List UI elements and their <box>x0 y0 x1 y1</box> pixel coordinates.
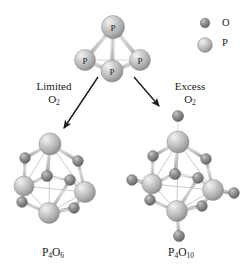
legend <box>198 18 213 52</box>
limited-oxygen-subscript: 2 <box>56 97 60 106</box>
p4o10-formula-label: P4O10 <box>150 246 212 260</box>
oxygen-atom <box>65 175 76 186</box>
excess-oxygen-line1: Excess <box>175 80 206 92</box>
p4o6-molecule <box>14 133 96 224</box>
limited-oxygen-line1: Limited <box>37 80 72 92</box>
limited-oxygen-line2: O <box>48 93 56 105</box>
oxygen-atom <box>201 154 212 165</box>
excess-oxygen-line2: O <box>184 93 192 105</box>
terminal-oxygen-atom <box>173 230 184 241</box>
terminal-oxygen-atom <box>172 110 183 121</box>
p4-tetrahedron: P P P P <box>75 16 151 83</box>
terminal-oxygen-atom <box>127 175 138 186</box>
oxygen-atom <box>193 173 204 184</box>
oxygen-sphere-icon <box>200 18 210 28</box>
p-atom-front-label: P <box>109 67 114 77</box>
oxygen-atom <box>145 195 156 206</box>
p4o6-subscript-6: 6 <box>60 251 64 260</box>
p4o10-subscript-10: 10 <box>186 251 194 260</box>
phosphorus-atom <box>167 131 189 153</box>
excess-oxygen-arrow <box>134 77 159 106</box>
p4o10-molecule <box>127 110 240 241</box>
p4o6-formula-label: P4O6 <box>22 246 84 260</box>
phosphorus-atom <box>203 180 224 201</box>
oxygen-atom <box>17 197 28 208</box>
excess-oxygen-label: Excess O2 <box>163 80 217 107</box>
phosphorus-atom <box>39 133 61 155</box>
phosphorus-atom <box>14 176 34 196</box>
legend-label-oxygen: O <box>222 17 230 29</box>
phosphorus-atom <box>167 201 188 222</box>
oxygen-atom <box>20 153 31 164</box>
phosphorus-atom <box>39 203 60 224</box>
figure-canvas: P P P P <box>0 0 246 273</box>
phosphorus-atom <box>142 174 162 194</box>
oxygen-atom <box>41 170 52 181</box>
legend-label-phosphorus: P <box>222 37 228 49</box>
phosphorus-atom <box>75 182 96 203</box>
oxygen-atom <box>169 168 180 179</box>
p-atom-right-label: P <box>137 56 142 66</box>
oxygen-atom <box>69 203 80 214</box>
molecule-diagram: P P P P <box>0 0 246 273</box>
limited-oxygen-label: Limited O2 <box>27 80 81 107</box>
oxygen-atom <box>148 151 159 162</box>
oxygen-atom <box>197 201 208 212</box>
p-atom-top-label: P <box>110 23 115 33</box>
p-atom-left-label: P <box>82 56 87 66</box>
terminal-oxygen-atom <box>229 188 240 199</box>
oxygen-atom <box>73 156 84 167</box>
excess-oxygen-subscript: 2 <box>192 97 196 106</box>
phosphorus-sphere-icon <box>198 38 213 53</box>
